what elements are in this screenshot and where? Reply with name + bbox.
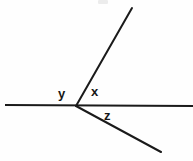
angle-label-x: x	[91, 85, 98, 98]
geometry-drawing	[0, 0, 193, 161]
upper-ray	[76, 8, 132, 106]
cropped-text-artifact	[98, 0, 108, 4]
horizontal-line	[5, 105, 193, 106]
angle-diagram-canvas: y x z	[0, 0, 193, 161]
angle-label-z: z	[104, 109, 111, 122]
angle-label-y: y	[58, 87, 65, 100]
lower-right-ray	[76, 106, 161, 152]
